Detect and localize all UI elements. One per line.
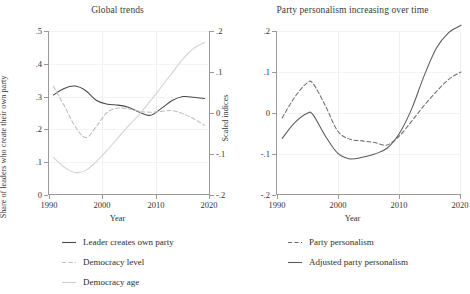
legend-swatch-light-solid-icon bbox=[62, 278, 76, 287]
y-axis-label-left: Share of leaders who create their own pa… bbox=[0, 76, 8, 219]
tick-label-y-left-02: .2 bbox=[36, 124, 42, 134]
legend-left: Leader creates own party Democracy level… bbox=[0, 232, 235, 292]
tick-label-x-2020: 2020 bbox=[201, 200, 218, 210]
tick-y-right-0 bbox=[210, 113, 214, 114]
tick-x-1990 bbox=[49, 195, 50, 199]
chart-title-left: Global trends bbox=[0, 5, 235, 15]
tick-label-y-r-0: 0 bbox=[266, 108, 270, 118]
tick-label-x-r-2020: 2020 bbox=[452, 200, 469, 210]
tick-label-y-r-neg02: -.2 bbox=[261, 190, 270, 200]
legend-swatch-solid-icon bbox=[288, 258, 302, 267]
tick-x-r-2010 bbox=[399, 195, 400, 199]
tick-label-y-left-01: .1 bbox=[36, 157, 42, 167]
legend-item-leader-creates-own-party[interactable]: Leader creates own party bbox=[0, 232, 235, 252]
series-line-leader-creates-own-party bbox=[53, 86, 204, 115]
tick-label-y-r-01: .1 bbox=[264, 67, 270, 77]
legend-item-adjusted-party-personalism[interactable]: Adjusted party personalism bbox=[235, 252, 470, 272]
tick-x-r-2000 bbox=[338, 195, 339, 199]
chart-title-right: Party personalism increasing over time bbox=[235, 5, 470, 15]
tick-label-y-left-0: 0 bbox=[38, 190, 42, 200]
tick-label-y-right-0: 0 bbox=[216, 108, 220, 118]
x-axis-label-right: Year bbox=[235, 213, 470, 223]
legend-label-0: Leader creates own party bbox=[83, 238, 174, 247]
tick-label-x-2010: 2010 bbox=[148, 200, 165, 210]
legend-swatch-dashed-icon bbox=[62, 258, 76, 267]
x-axis-label-left: Year bbox=[10, 213, 225, 223]
plot-area-right: -.2 -.1 0 .1 .2 1990 2000 2010 2020 bbox=[276, 31, 461, 195]
tick-x-2010 bbox=[156, 195, 157, 199]
tick-label-x-r-2010: 2010 bbox=[391, 200, 408, 210]
legend-right: Party personalism Adjusted party persona… bbox=[235, 232, 470, 272]
legend-label-r-1: Adjusted party personalism bbox=[309, 258, 408, 267]
legend-label-r-0: Party personalism bbox=[309, 238, 374, 247]
chart-panel-global-trends: Global trends Share of leaders who creat… bbox=[0, 0, 235, 294]
tick-y-r-neg02 bbox=[272, 195, 276, 196]
tick-label-x-r-1990: 1990 bbox=[269, 200, 286, 210]
tick-label-y-right-neg01: -.1 bbox=[216, 149, 225, 159]
tick-label-y-left-05: .5 bbox=[36, 26, 42, 36]
series-lines-right bbox=[276, 31, 461, 195]
tick-label-y-left-03: .3 bbox=[36, 92, 42, 102]
series-line-democracy-level bbox=[53, 86, 204, 137]
figure-root: Global trends Share of leaders who creat… bbox=[0, 0, 470, 294]
legend-label-2: Democracy age bbox=[83, 278, 139, 287]
legend-item-democracy-level[interactable]: Democracy level bbox=[0, 252, 235, 272]
legend-item-party-personalism[interactable]: Party personalism bbox=[235, 232, 470, 252]
legend-swatch-solid-icon bbox=[62, 238, 76, 247]
tick-x-2000 bbox=[102, 195, 103, 199]
y-axis-label-right-scaled-indices: Scaled indices bbox=[221, 94, 230, 141]
legend-item-democracy-age[interactable]: Democracy age bbox=[0, 272, 235, 292]
tick-y-right-02 bbox=[210, 31, 214, 32]
series-lines-left bbox=[48, 31, 210, 195]
tick-label-y-right-neg02: -.2 bbox=[216, 190, 225, 200]
tick-y-right-01 bbox=[210, 72, 214, 73]
tick-label-x-1990: 1990 bbox=[41, 200, 58, 210]
tick-label-y-r-02: .2 bbox=[264, 26, 270, 36]
legend-swatch-dashed-icon bbox=[288, 238, 302, 247]
tick-x-r-2020 bbox=[460, 195, 461, 199]
tick-y-left-0 bbox=[44, 195, 48, 196]
tick-label-y-right-02: .2 bbox=[216, 26, 222, 36]
tick-label-y-left-04: .4 bbox=[36, 59, 42, 69]
tick-label-x-2000: 2000 bbox=[94, 200, 111, 210]
tick-label-y-right-01: .1 bbox=[216, 67, 222, 77]
tick-y-right-neg02 bbox=[210, 195, 214, 196]
tick-x-2020 bbox=[209, 195, 210, 199]
legend-label-1: Democracy level bbox=[83, 258, 144, 267]
plot-area-left: 0 .1 .2 .3 .4 .5 -.2 -.1 0 .1 .2 1990 20… bbox=[48, 31, 210, 195]
chart-panel-party-personalism: Party personalism increasing over time -… bbox=[235, 0, 470, 294]
tick-y-right-neg01 bbox=[210, 154, 214, 155]
series-line-adjusted-party-personalism bbox=[282, 25, 461, 159]
tick-x-r-1990 bbox=[277, 195, 278, 199]
tick-label-y-r-neg01: -.1 bbox=[261, 149, 270, 159]
series-line-party-personalism bbox=[282, 72, 461, 145]
tick-label-x-r-2000: 2000 bbox=[330, 200, 347, 210]
